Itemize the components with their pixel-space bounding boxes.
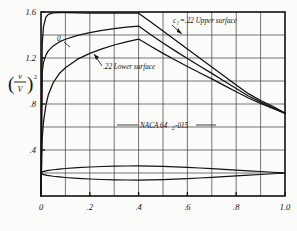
- annotation-airfoil-name-prefix: NACA 64: [139, 122, 168, 130]
- velocity-distribution-chart: 0.2.4.6.81.0 1.61.2.8.4 ( v V ) 2 0 c l …: [0, 0, 297, 231]
- figure-container: 0.2.4.6.81.0 1.61.2.8.4 ( v V ) 2 0 c l …: [0, 0, 297, 231]
- y-tick-label: 1.2: [25, 53, 36, 63]
- y-title-open-paren: (: [8, 73, 14, 95]
- x-tick-label: .6: [184, 202, 191, 212]
- x-tick-label: 1.0: [280, 202, 291, 212]
- y-title-exponent: 2: [34, 74, 37, 80]
- annotation-cl-zero-label: 0: [57, 35, 61, 43]
- y-tick-label: .8: [30, 99, 37, 109]
- x-tick-label: .8: [233, 202, 240, 212]
- y-title-numerator: v: [18, 72, 22, 81]
- y-tick-label: 1.6: [25, 7, 36, 17]
- annotation-upper-surface-text: =.22 Upper surface: [180, 17, 238, 25]
- x-tick-label: .2: [87, 202, 94, 212]
- y-title-close-paren: ): [27, 73, 33, 95]
- y-tick-label: .4: [30, 145, 37, 155]
- annotation-lower-surface-text: .22 Lower surface: [103, 63, 156, 71]
- annotation-airfoil-name-suffix: -015: [175, 122, 189, 130]
- x-tick-label: .4: [135, 202, 142, 212]
